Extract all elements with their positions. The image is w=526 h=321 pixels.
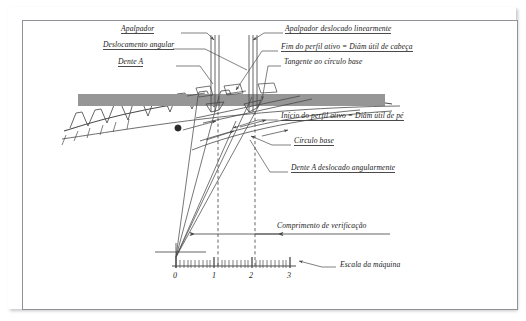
label-dente-a-deslocado: Dente A deslocado angularmente [291, 164, 395, 173]
label-dente-a: Dente A [118, 58, 143, 67]
machine-scale-ruler [155, 243, 296, 268]
label-apalpador: Apalpador [121, 25, 154, 34]
label-tangente-circulo-base: Tangente ao círculo base [284, 58, 362, 66]
label-fim-perfil-ativo: Fim do perfil ativo = Diâm útil de cabeç… [281, 43, 413, 52]
label-escala-maquina: Escala da máquina [340, 261, 400, 269]
tooth-a-marker-point [175, 125, 181, 131]
scale-tick-label-1: 1 [212, 271, 216, 280]
label-deslocamento-angular: Deslocamento angular [103, 41, 174, 50]
label-inicio-perfil-ativo: Início do perfil ativo = Diâm útil de pé [281, 112, 404, 121]
label-apalpador-deslocado: Apalpador deslocado linearmente [285, 25, 391, 34]
scale-tick-label-3: 3 [287, 271, 291, 280]
label-comprimento-verificacao: Comprimento de verificação [277, 222, 367, 230]
figure-page: Apalpador Deslocamento angular Dente A A… [0, 0, 526, 321]
scale-tick-label-2: 2 [249, 271, 253, 280]
scale-tick-label-0: 0 [173, 271, 177, 280]
angular-displacement-rays [176, 96, 262, 257]
callout-leader-lines [173, 33, 336, 267]
scale-minor-ticks [180, 260, 286, 268]
label-circulo-base: Círculo base [294, 137, 334, 146]
measurement-band [78, 94, 385, 106]
gear-inspection-diagram [0, 0, 526, 321]
